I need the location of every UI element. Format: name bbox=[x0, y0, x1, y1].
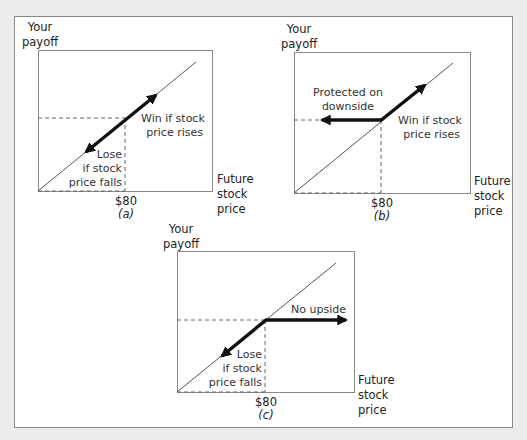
panel-a-y-axis-label: Your payoff bbox=[22, 20, 58, 50]
panel-b-x-axis-label: Future stock price bbox=[474, 174, 511, 219]
panel-b-caption: (b) bbox=[368, 209, 396, 224]
panel-b-win-annotation: Win if stock price rises bbox=[398, 114, 460, 142]
panel-c-lose-annotation: Lose if stock price falls bbox=[200, 348, 262, 390]
panel-a-lose-annotation: Lose if stock price falls bbox=[60, 148, 122, 190]
panel-a-x-axis-label: Future stock price bbox=[217, 172, 254, 217]
panel-c-caption: (c) bbox=[252, 408, 280, 423]
panel-c-x-axis-label: Future stock price bbox=[358, 373, 395, 418]
panel-a-win-annotation: Win if stock price rises bbox=[141, 112, 203, 140]
payoff-diagrams bbox=[0, 0, 527, 440]
panel-b-y-axis-label: Your payoff bbox=[281, 22, 317, 52]
panel-c-no-upside-annotation: No upside bbox=[282, 303, 346, 317]
panel-a-caption: (a) bbox=[112, 207, 140, 222]
panel-b-protected-annotation: Protected on downside bbox=[308, 86, 388, 114]
panel-c-y-axis-label: Your payoff bbox=[163, 222, 199, 252]
